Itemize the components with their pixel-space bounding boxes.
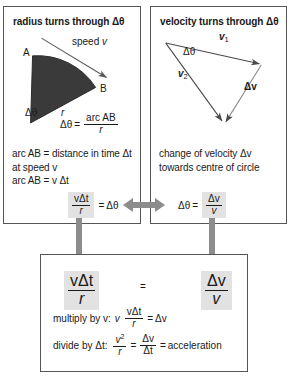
derivation-step-2: divide by Δt: v2 r = Δv Δt = acceleratio… (53, 333, 222, 357)
equation-right-numerator: Δv (206, 194, 222, 205)
step2-equals-2: = (160, 340, 166, 351)
step2-right-denominator: Δt (140, 345, 156, 357)
equation-right-lhs: Δθ (178, 200, 190, 211)
bottom-left-fraction: vΔt r (64, 271, 99, 310)
bottom-left-denominator: r (68, 290, 95, 308)
step1-numerator: vΔt (125, 307, 143, 318)
step2-left-fraction: v2 r (113, 333, 126, 357)
step2-left-numerator: v2 (113, 333, 126, 346)
step2-left-denominator: r (113, 346, 126, 358)
equation-left-equals: = (98, 200, 104, 211)
step2-result: acceleration (168, 340, 222, 351)
step1-prefix: multiply by v: (53, 313, 111, 324)
equation-left-numerator: vΔt (72, 194, 90, 205)
equation-right: Δθ = Δv v (178, 192, 228, 218)
equation-left: vΔt r = Δθ (66, 192, 119, 218)
step2-right-fraction: Δv Δt (140, 334, 156, 356)
derivation-step-1: multiply by v: v vΔt r = Δv (53, 307, 167, 329)
step2-prefix: divide by Δt: (53, 340, 107, 351)
step1-factor: v (115, 313, 120, 324)
equation-left-fraction: vΔt r (68, 192, 94, 218)
bidirectional-arrow (123, 198, 165, 212)
equation-right-denominator: v (206, 205, 222, 217)
bottom-right-fraction: Δv v (201, 271, 232, 310)
step1-equals: = (147, 313, 153, 324)
equation-left-denominator: r (72, 205, 90, 217)
bottom-left-numerator: vΔt (68, 273, 95, 290)
step1-result: Δv (155, 313, 167, 324)
step2-right-numerator: Δv (140, 334, 156, 345)
bottom-right-denominator: v (205, 290, 228, 308)
equation-right-fraction: Δv v (202, 192, 226, 218)
bottom-right-numerator: Δv (205, 273, 228, 290)
step2-equals-1: = (130, 340, 136, 351)
bottom-equals: = (140, 281, 146, 292)
step1-fraction: vΔt r (125, 307, 143, 329)
equation-left-rhs: Δθ (106, 200, 118, 211)
equation-right-equals: = (192, 200, 198, 211)
step1-denominator: r (125, 318, 143, 330)
